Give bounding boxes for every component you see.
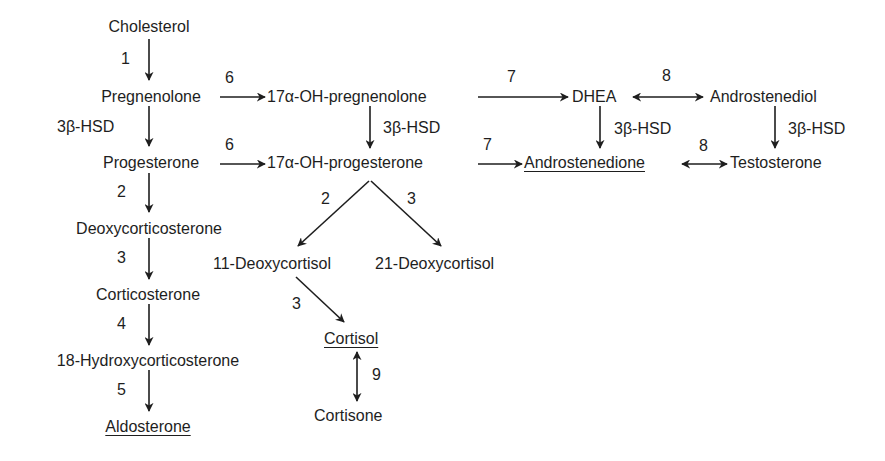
enzyme-label-3: 3 <box>407 190 416 208</box>
enzyme-label-7: 7 <box>483 136 492 154</box>
node-cortisone: Cortisone <box>314 407 382 425</box>
node-testosterone: Testosterone <box>730 154 822 172</box>
enzyme-label-6: 6 <box>225 136 234 154</box>
enzyme-label-3b-hsd: 3β-HSD <box>788 120 845 138</box>
node-cortisol: Cortisol <box>324 330 378 348</box>
node-deoxycorticosterone: Deoxycorticosterone <box>76 220 222 238</box>
node-17oh-pregnenolone: 17α-OH-pregnenolone <box>267 88 427 106</box>
enzyme-label-9: 9 <box>372 366 381 384</box>
node-androstenediol: Androstenediol <box>710 88 817 106</box>
node-progesterone: Progesterone <box>103 154 199 172</box>
enzyme-label-6: 6 <box>225 69 234 87</box>
enzyme-label-3b-hsd: 3β-HSD <box>57 118 114 136</box>
node-17oh-progesterone: 17α-OH-progesterone <box>267 154 423 172</box>
enzyme-label-8: 8 <box>662 67 671 85</box>
enzyme-label-4: 4 <box>117 315 126 333</box>
enzyme-label-3b-hsd: 3β-HSD <box>614 120 671 138</box>
enzyme-label-3: 3 <box>117 249 126 267</box>
node-aldosterone: Aldosterone <box>105 418 190 436</box>
enzyme-label-8: 8 <box>699 137 708 155</box>
enzyme-label-3: 3 <box>292 295 301 313</box>
arrow-ohprog-21deoxycortisol <box>371 181 441 246</box>
node-cholesterol: Cholesterol <box>109 18 190 36</box>
node-21-deoxycortisol: 21-Deoxycortisol <box>375 255 494 273</box>
enzyme-label-5: 5 <box>117 381 126 399</box>
node-androstenedione: Androstenedione <box>524 154 645 172</box>
node-dhea: DHEA <box>572 88 616 106</box>
node-11-deoxycortisol: 11-Deoxycortisol <box>213 255 331 273</box>
arrow-ohprog-11deoxycortisol <box>298 181 369 246</box>
enzyme-label-3b-hsd: 3β-HSD <box>383 119 440 137</box>
arrow-11deoxycortisol-cortisol <box>296 277 344 322</box>
enzyme-label-7: 7 <box>507 68 516 86</box>
enzyme-label-1: 1 <box>121 50 130 68</box>
enzyme-label-2: 2 <box>117 183 126 201</box>
node-18-hydroxycorticosterone: 18-Hydroxycorticosterone <box>57 352 239 370</box>
enzyme-label-2: 2 <box>321 190 330 208</box>
node-pregnenolone: Pregnenolone <box>101 88 201 106</box>
node-corticosterone: Corticosterone <box>96 286 200 304</box>
